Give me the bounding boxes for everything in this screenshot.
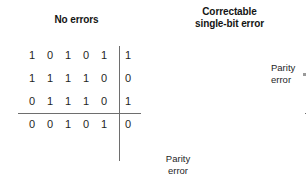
bit-cell: 0 bbox=[95, 73, 113, 84]
bit-cell: 1 bbox=[23, 50, 41, 61]
parity-bit-cell: 0 bbox=[41, 119, 59, 130]
bit-cell: 0 bbox=[77, 50, 95, 61]
panel-title-no-errors: No errors bbox=[0, 14, 153, 26]
bit-cell: 1 bbox=[77, 96, 95, 107]
bit-cell: 1 bbox=[59, 50, 77, 61]
bit-cell: 1 bbox=[23, 73, 41, 84]
bit-grid-no-errors: 1 0 1 0 1 1 1 1 1 1 0 0 0 1 1 1 0 1 0 0 … bbox=[23, 44, 137, 136]
parity-bit-cell: 0 bbox=[119, 73, 137, 84]
panel-title-line-1: Correctable bbox=[153, 6, 306, 18]
column-parity-error-label-line-2: error bbox=[158, 165, 198, 177]
column-parity-error-label: Parity error bbox=[158, 153, 198, 176]
bit-cell: 0 bbox=[95, 96, 113, 107]
bit-cell: 1 bbox=[41, 73, 59, 84]
row-parity-error-label-line-1: Parity bbox=[271, 62, 295, 74]
parity-bit-cell: 1 bbox=[119, 50, 137, 61]
parity-bit-cell: 1 bbox=[119, 96, 137, 107]
bit-cell: 1 bbox=[59, 73, 77, 84]
parity-bit-cell: 1 bbox=[59, 119, 77, 130]
parity-bit-cell: 0 bbox=[119, 119, 137, 130]
parity-bit-cell: 0 bbox=[23, 119, 41, 130]
bit-cell: 0 bbox=[41, 50, 59, 61]
bit-cell: 1 bbox=[77, 73, 95, 84]
parity-bit-cell: 1 bbox=[95, 119, 113, 130]
row-parity-error-arrow-icon bbox=[303, 73, 306, 76]
panel-title-line-2: single-bit error bbox=[153, 18, 306, 30]
bit-cell: 1 bbox=[95, 50, 113, 61]
parity-bit-cell: 0 bbox=[77, 119, 95, 130]
bit-cell: 0 bbox=[23, 96, 41, 107]
bit-cell: 1 bbox=[41, 96, 59, 107]
parity-row-separator bbox=[305, 113, 306, 114]
row-parity-error-label-line-2: error bbox=[271, 74, 295, 86]
panel-title-correctable-error: Correctable single-bit error bbox=[153, 6, 306, 30]
parity-row-separator bbox=[18, 113, 141, 114]
bit-cell: 1 bbox=[59, 96, 77, 107]
column-parity-error-label-line-1: Parity bbox=[158, 153, 198, 165]
row-parity-error-label: Parity error bbox=[271, 62, 295, 85]
panel-no-errors: No errors 1 0 1 0 1 1 1 1 1 1 0 0 0 1 1 … bbox=[0, 0, 153, 183]
